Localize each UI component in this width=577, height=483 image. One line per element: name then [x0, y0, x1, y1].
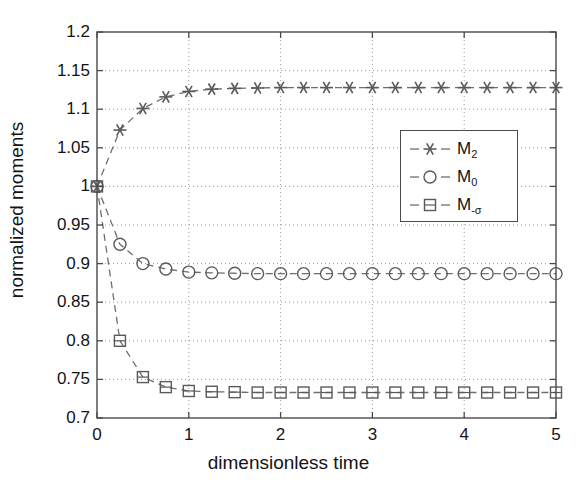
y-tick-label: 0.9	[24, 254, 90, 274]
y-tick-label: 0.95	[24, 215, 90, 235]
legend-marker-asterisk-icon	[407, 139, 453, 159]
legend-item-asterisk: M2	[407, 139, 477, 159]
legend-item-square: M-σ	[407, 195, 482, 215]
y-tick-label: 1.2	[24, 22, 90, 42]
y-tick-label: 1	[24, 176, 90, 196]
legend: M2M0M-σ	[400, 130, 518, 222]
x-tick-label: 0	[92, 425, 101, 445]
y-tick-label: 0.85	[24, 292, 90, 312]
x-axis-label: dimensionless time	[0, 452, 577, 474]
x-tick-label: 5	[551, 425, 560, 445]
x-tick-label: 1	[184, 425, 193, 445]
chart-figure: normalized moments dimensionless time 0.…	[0, 0, 577, 483]
x-tick-label: 2	[276, 425, 285, 445]
y-tick-label: 1.05	[24, 138, 90, 158]
legend-marker-square-icon	[407, 195, 453, 215]
legend-label: M0	[457, 167, 477, 187]
y-tick-label: 0.8	[24, 331, 90, 351]
x-tick-label: 4	[459, 425, 468, 445]
legend-label: M-σ	[457, 195, 482, 215]
y-tick-label: 1.15	[24, 61, 90, 81]
y-tick-label: 0.75	[24, 369, 90, 389]
y-tick-label: 1.1	[24, 99, 90, 119]
x-tick-label: 3	[368, 425, 377, 445]
legend-marker-circle-icon	[407, 167, 453, 187]
legend-item-circle: M0	[407, 167, 477, 187]
legend-label: M2	[457, 139, 477, 159]
y-tick-label: 0.7	[24, 408, 90, 428]
